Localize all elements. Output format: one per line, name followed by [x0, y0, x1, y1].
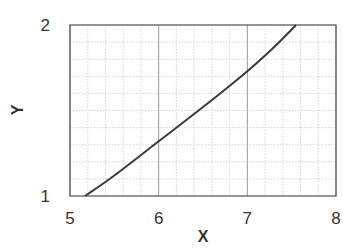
x-axis-ticks: 5678 [65, 209, 340, 228]
y-axis-ticks: 12 [41, 16, 50, 206]
chart-canvas: 5678 12 X Y [0, 0, 343, 252]
x-tick-label: 5 [65, 209, 74, 228]
minor-grid [70, 25, 336, 196]
x-tick-label: 6 [154, 209, 163, 228]
y-tick-label: 1 [41, 187, 50, 206]
x-axis-title: X [198, 228, 209, 245]
x-tick-label: 8 [331, 209, 340, 228]
y-axis-title: Y [9, 104, 26, 115]
x-tick-label: 7 [243, 209, 252, 228]
y-tick-label: 2 [41, 16, 50, 35]
